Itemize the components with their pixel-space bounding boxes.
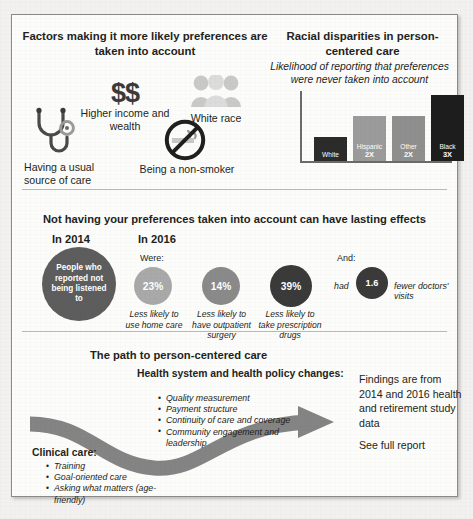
and-label: And: — [337, 253, 356, 263]
see-full-report-link[interactable]: See full report — [359, 439, 425, 451]
policy-item: Community engagement and leadership — [159, 427, 313, 449]
racial-disparities-bar-chart: White Hispanic 2X Other 2X Black 3X — [300, 91, 452, 163]
had-label: had — [334, 281, 349, 291]
bar-black: Black 3X — [431, 95, 464, 161]
bar-hispanic: Hispanic 2X — [353, 116, 386, 161]
stat-value-outpatient-surgery: 14% — [211, 281, 231, 292]
stat-caption-home-care: Less likely to use home care — [125, 309, 183, 330]
clinical-care-heading: Clinical care: — [32, 447, 97, 458]
stat-circle-prescription-drugs: 39% — [270, 265, 312, 307]
stat-caption-outpatient-surgery: Less likely to have outpatient surgery — [190, 309, 253, 341]
stat-circle-outpatient-surgery: 14% — [202, 267, 240, 305]
people-not-listened-text: People who reported not being listened t… — [49, 263, 109, 305]
clinical-items-list: Training Goal-oriented care Asking what … — [36, 461, 176, 506]
dollar-signs-icon: $$ — [85, 78, 165, 109]
clinical-item: Training — [47, 461, 176, 472]
bar-black-value: 3X — [431, 151, 464, 160]
chart-y-axis — [300, 91, 302, 163]
findings-text: Findings are from 2014 and 2016 health a… — [359, 372, 464, 430]
no-smoking-icon — [164, 119, 206, 161]
bar-other-value: 2X — [392, 151, 425, 160]
factors-title: Factors making it more likely preference… — [20, 29, 270, 58]
policy-item: Payment structure — [159, 404, 313, 415]
stethoscope-icon — [29, 107, 77, 155]
bar-white: White — [314, 137, 347, 161]
visits-circle: 1.6 — [356, 267, 388, 299]
policy-items-list: Quality measurement Payment structure Co… — [148, 393, 313, 449]
clinical-item: Asking what matters (age-friendly) — [47, 483, 176, 505]
year-2016-label: In 2016 — [138, 233, 176, 245]
policy-item: Quality measurement — [159, 393, 313, 404]
non-smoker-label: Being a non-smoker — [130, 163, 244, 176]
lasting-effects-heading: Not having your preferences taken into a… — [12, 213, 457, 225]
stat-circle-home-care: 23% — [134, 267, 172, 305]
section-divider-1 — [22, 189, 447, 190]
people-group-icon — [190, 75, 242, 107]
visits-value: 1.6 — [366, 278, 379, 288]
bar-white-label: White — [314, 151, 347, 159]
section-divider-2 — [22, 331, 447, 332]
policy-item: Continuity of care and coverage — [159, 415, 313, 426]
were-label: Were: — [140, 253, 164, 263]
higher-income-label: Higher income and wealth — [74, 107, 176, 133]
policy-heading: Health system and health policy changes: — [137, 367, 344, 380]
stat-value-home-care: 23% — [143, 281, 163, 292]
stat-caption-prescription-drugs: Less likely to take prescription drugs — [258, 309, 322, 341]
bar-hispanic-value: 2X — [353, 151, 386, 160]
chart-subtitle: Likelihood of reporting that preferences… — [262, 60, 457, 86]
visits-caption: fewer doctors' visits — [394, 281, 457, 301]
bar-other: Other 2X — [392, 116, 425, 161]
chart-title: Racial disparities in person-centered ca… — [270, 29, 455, 58]
year-2014-label: In 2014 — [52, 233, 90, 245]
usual-source-label: Having a usual source of care — [24, 161, 116, 187]
clinical-item: Goal-oriented care — [47, 472, 176, 483]
infographic-frame: Factors making it more likely preference… — [11, 14, 458, 497]
people-not-listened-circle: People who reported not being listened t… — [42, 247, 116, 321]
stat-value-prescription-drugs: 39% — [281, 281, 301, 292]
path-heading: The path to person-centered care — [90, 349, 267, 361]
chart-x-axis — [300, 161, 452, 163]
